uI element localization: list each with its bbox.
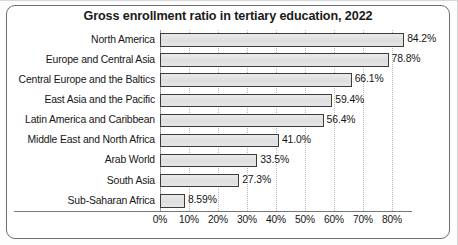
- bar[interactable]: 33.5%: [160, 154, 257, 168]
- category-label: Latin America and Caribbean: [25, 115, 155, 125]
- bar[interactable]: 27.3%: [160, 174, 239, 188]
- bar-value-label: 59.4%: [335, 95, 364, 105]
- bar[interactable]: 56.4%: [160, 114, 324, 128]
- x-tick-label: 20%: [208, 214, 228, 225]
- x-tick-label: 0%: [153, 214, 167, 225]
- category-label: Europe and Central Asia: [46, 55, 155, 65]
- bar-row: Arab World33.5%: [160, 151, 412, 171]
- bar[interactable]: 41.0%: [160, 134, 279, 148]
- chart-title: Gross enrollment ratio in tertiary educa…: [6, 9, 450, 23]
- category-label: South Asia: [107, 176, 155, 186]
- bar[interactable]: 8.59%: [160, 194, 185, 208]
- bar[interactable]: 66.1%: [160, 73, 352, 87]
- category-label: North America: [91, 35, 155, 45]
- category-label: Sub-Saharan Africa: [68, 196, 155, 206]
- bar-row: Sub-Saharan Africa8.59%: [160, 191, 412, 211]
- x-tick-label: 60%: [324, 214, 344, 225]
- bar-row: Europe and Central Asia78.8%: [160, 50, 412, 70]
- x-tick-label: 70%: [353, 214, 373, 225]
- bar-value-label: 41.0%: [282, 135, 311, 145]
- category-label: East Asia and the Pacific: [44, 95, 155, 105]
- x-tick-label: 80%: [382, 214, 402, 225]
- category-label: Central Europe and the Baltics: [19, 75, 155, 85]
- bar[interactable]: 78.8%: [160, 53, 389, 67]
- x-axis-tick-labels: 0%10%20%30%40%50%60%70%80%: [160, 214, 412, 230]
- x-tick-label: 10%: [179, 214, 199, 225]
- bar-value-label: 27.3%: [242, 175, 271, 185]
- x-tick-label: 30%: [237, 214, 257, 225]
- bar-row: Latin America and Caribbean56.4%: [160, 110, 412, 130]
- bar-value-label: 66.1%: [355, 74, 384, 84]
- x-tick-label: 40%: [266, 214, 286, 225]
- bar-value-label: 56.4%: [327, 115, 356, 125]
- x-axis-line: [14, 211, 412, 212]
- bar[interactable]: 84.2%: [160, 33, 404, 47]
- bar-row: South Asia27.3%: [160, 171, 412, 191]
- category-label: Middle East and North Africa: [28, 135, 155, 145]
- bar-row: Central Europe and the Baltics66.1%: [160, 70, 412, 90]
- x-tick-label: 50%: [295, 214, 315, 225]
- category-label: Arab World: [105, 155, 155, 165]
- page-edge-top: [0, 0, 458, 1]
- bar-row: North America84.2%: [160, 30, 412, 50]
- bar-value-label: 78.8%: [392, 54, 421, 64]
- plot-area: North America84.2%Europe and Central Asi…: [160, 30, 412, 211]
- bar-value-label: 8.59%: [188, 195, 217, 205]
- bar-value-label: 84.2%: [407, 34, 436, 44]
- bar-row: Middle East and North Africa41.0%: [160, 130, 412, 150]
- bar[interactable]: 59.4%: [160, 94, 332, 108]
- scanned-page: Gross enrollment ratio in tertiary educa…: [0, 0, 458, 245]
- bar-row: East Asia and the Pacific59.4%: [160, 90, 412, 110]
- bar-value-label: 33.5%: [260, 155, 289, 165]
- bar-rows: North America84.2%Europe and Central Asi…: [160, 30, 412, 211]
